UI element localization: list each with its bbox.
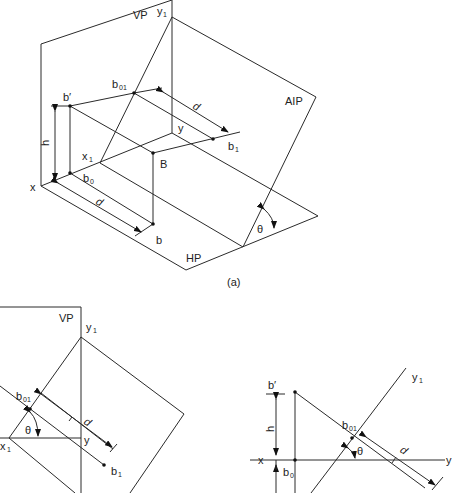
point-b-prime bbox=[68, 104, 72, 108]
vertical-plane-a bbox=[41, 0, 172, 186]
svg-text:01: 01 bbox=[23, 396, 31, 403]
label-y-b: y bbox=[84, 434, 90, 446]
label-vp-b: VP bbox=[59, 312, 74, 324]
point-b01-c bbox=[350, 436, 354, 440]
label-d-bottom-a: d bbox=[94, 195, 106, 209]
svg-text:1: 1 bbox=[89, 156, 93, 163]
svg-text:0: 0 bbox=[90, 178, 94, 185]
figure-a: VP y 1 AIP b′ b 01 y b 1 B x 1 b 0 x b H… bbox=[30, 0, 318, 288]
label-b1-a: b bbox=[228, 140, 234, 152]
svg-text:1: 1 bbox=[419, 377, 423, 384]
label-theta-c: θ bbox=[357, 445, 363, 457]
label-h-a: h bbox=[39, 140, 51, 146]
label-y-a: y bbox=[178, 122, 184, 134]
label-b0-c: b bbox=[283, 466, 289, 478]
label-x-c: x bbox=[258, 454, 264, 466]
label-b-prime-c: b′ bbox=[268, 379, 276, 391]
label-vp-a: VP bbox=[133, 9, 148, 21]
label-b01-a: b bbox=[112, 78, 118, 90]
point-b01 bbox=[132, 91, 136, 95]
label-b-a: b bbox=[156, 234, 162, 246]
point-b01-b bbox=[28, 407, 32, 411]
figure-c: b′ y 1 b 01 θ d h y x b 0 bbox=[250, 368, 452, 493]
label-B: B bbox=[160, 158, 167, 170]
svg-text:1: 1 bbox=[118, 471, 122, 478]
label-h-c: h bbox=[264, 426, 276, 432]
label-d-c: d bbox=[398, 443, 411, 457]
label-hp: HP bbox=[186, 252, 201, 264]
point-b1-b bbox=[102, 463, 106, 467]
figure-b: VP y 1 b 01 θ d y x 1 b 1 bbox=[0, 307, 184, 493]
label-x1-b: x bbox=[0, 440, 6, 452]
label-aip: AIP bbox=[285, 95, 303, 107]
label-x1-a: x bbox=[82, 150, 88, 162]
label-y-c: y bbox=[446, 454, 452, 466]
svg-text:01: 01 bbox=[349, 425, 357, 432]
svg-text:1: 1 bbox=[235, 146, 239, 153]
point-b1 bbox=[211, 137, 215, 141]
projection-diagram: VP y 1 AIP b′ b 01 y b 1 B x 1 b 0 x b H… bbox=[0, 0, 459, 493]
svg-text:01: 01 bbox=[119, 84, 127, 91]
label-x-a: x bbox=[30, 181, 36, 193]
label-b1-b: b bbox=[111, 465, 117, 477]
label-y1-b: y bbox=[86, 321, 92, 333]
svg-text:1: 1 bbox=[7, 446, 11, 453]
point-b bbox=[151, 222, 155, 226]
label-y1-c: y bbox=[412, 371, 418, 383]
label-b-prime-a: b′ bbox=[63, 91, 71, 103]
svg-text:1: 1 bbox=[163, 11, 167, 18]
point-b0 bbox=[68, 171, 72, 175]
auxiliary-plane-a bbox=[100, 17, 316, 247]
label-b0-a: b bbox=[83, 172, 89, 184]
label-b01-c: b bbox=[342, 419, 348, 431]
label-theta-a: θ bbox=[257, 223, 263, 235]
label-d-top-a: d bbox=[191, 99, 203, 113]
label-theta-b: θ bbox=[25, 424, 31, 436]
svg-text:0: 0 bbox=[290, 472, 294, 479]
point-B bbox=[151, 151, 155, 155]
point-b-prime-c bbox=[293, 390, 297, 394]
caption-a: (a) bbox=[227, 276, 240, 288]
point-b0-c bbox=[293, 458, 297, 462]
label-b01-b: b bbox=[16, 390, 22, 402]
svg-text:1: 1 bbox=[93, 327, 97, 334]
